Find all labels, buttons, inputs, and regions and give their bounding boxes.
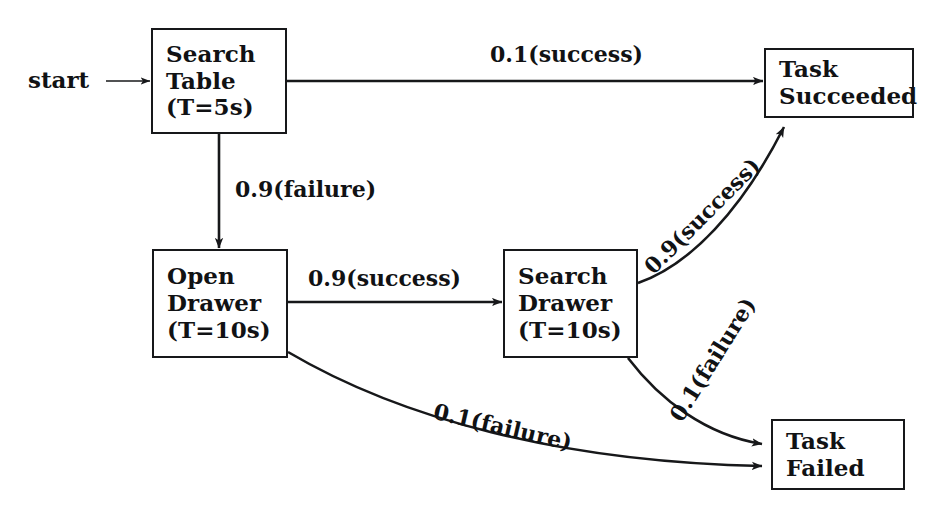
node-open-drawer-line-2: Drawer: [167, 290, 261, 317]
node-task-failed-line-2: Failed: [786, 455, 865, 482]
node-open-drawer-line-3: (T=10s): [167, 317, 271, 344]
state-transition-diagram: start Search Table (T=5s) Task Succeeded…: [0, 0, 931, 519]
edge-label-search-table-to-open-drawer: 0.9(failure): [235, 176, 376, 202]
node-search-table[interactable]: Search Table (T=5s): [151, 28, 287, 134]
node-task-succeeded-line-1: Task: [779, 56, 838, 83]
node-search-drawer-line-2: Drawer: [518, 290, 612, 317]
node-search-drawer-line-3: (T=10s): [518, 317, 622, 344]
node-search-table-line-2: Table: [166, 68, 236, 95]
node-search-drawer-line-1: Search: [518, 263, 608, 290]
node-open-drawer[interactable]: Open Drawer (T=10s): [152, 249, 288, 358]
node-task-failed-line-1: Task: [786, 428, 845, 455]
edge-label-search-table-to-task-succeeded: 0.1(success): [490, 41, 643, 67]
edge-label-open-drawer-to-search-drawer: 0.9(success): [308, 265, 461, 291]
node-task-succeeded[interactable]: Task Succeeded: [764, 48, 914, 118]
start-label: start: [28, 66, 89, 93]
node-search-table-line-3: (T=5s): [166, 94, 254, 121]
node-task-succeeded-line-2: Succeeded: [779, 83, 917, 110]
node-task-failed[interactable]: Task Failed: [771, 419, 905, 490]
node-search-drawer[interactable]: Search Drawer (T=10s): [503, 249, 638, 358]
node-open-drawer-line-1: Open: [167, 263, 235, 290]
node-search-table-line-1: Search: [166, 41, 256, 68]
